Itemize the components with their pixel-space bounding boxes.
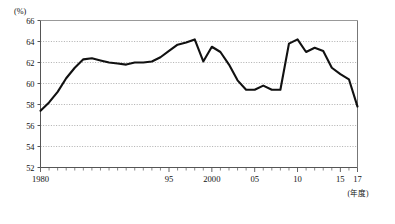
y-tick-label-58: 58 bbox=[26, 101, 34, 110]
x-tick-label-1995: 95 bbox=[165, 174, 174, 184]
y-tick-label-52: 52 bbox=[26, 164, 34, 173]
y-tick-label-62: 62 bbox=[26, 59, 34, 68]
x-tick-label-2000: 2000 bbox=[203, 174, 220, 184]
x-tick-label-2010: 10 bbox=[293, 174, 302, 184]
x-axis-unit-label: (年度) bbox=[347, 188, 369, 198]
grid-lines bbox=[41, 42, 358, 168]
y-tick-label-64: 64 bbox=[26, 38, 35, 47]
y-tick-label-66: 66 bbox=[26, 17, 34, 26]
y-tick-label-56: 56 bbox=[26, 122, 34, 131]
x-tick-label-2017: 17 bbox=[353, 174, 362, 184]
y-tick-label-60: 60 bbox=[26, 80, 34, 89]
x-tick-label-1980: 1980 bbox=[32, 174, 49, 184]
y-tick-label-54: 54 bbox=[26, 143, 35, 152]
chart-screenshot: 5254565860626466 198095200005101517 (%) … bbox=[0, 0, 395, 224]
x-axis-tick-labels: 198095200005101517 bbox=[32, 174, 363, 184]
y-axis-tick-labels: 5254565860626466 bbox=[26, 17, 40, 173]
y-axis-unit-label: (%) bbox=[14, 7, 27, 16]
x-axis-ticks bbox=[41, 168, 358, 173]
data-series-line bbox=[41, 39, 358, 110]
x-tick-label-2015: 15 bbox=[336, 174, 345, 184]
x-tick-label-2005: 05 bbox=[250, 174, 259, 184]
plot-frame bbox=[41, 21, 358, 168]
line-chart: 5254565860626466 198095200005101517 (%) … bbox=[0, 0, 395, 224]
series-polyline bbox=[41, 39, 358, 110]
